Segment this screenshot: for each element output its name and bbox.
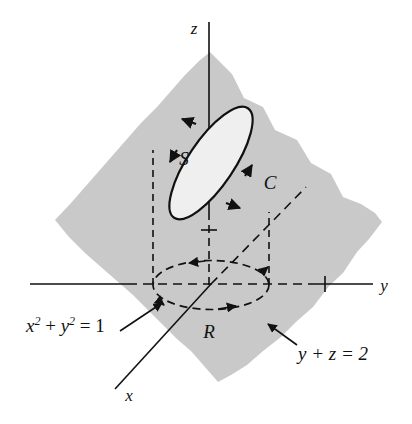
x-axis-label: x xyxy=(124,386,133,405)
y-axis-label: y xyxy=(378,276,388,295)
cyl-eq-plus: + xyxy=(40,315,60,336)
cyl-eq-y: y xyxy=(59,315,70,336)
cyl-eq-equals: = 1 xyxy=(75,315,105,336)
region-label: R xyxy=(202,321,215,342)
stokes-theorem-figure: z y x S C R x2 + y2 = 1 y + z = 2 xyxy=(0,0,412,424)
surface-label: S xyxy=(179,148,189,169)
curve-label: C xyxy=(264,172,277,193)
z-axis-label: z xyxy=(190,19,198,38)
figure-canvas: z y x S C R x2 + y2 = 1 y + z = 2 xyxy=(0,0,412,424)
cylinder-equation-label: x2 + y2 = 1 xyxy=(25,314,105,336)
plane-equation-label: y + z = 2 xyxy=(296,343,368,364)
